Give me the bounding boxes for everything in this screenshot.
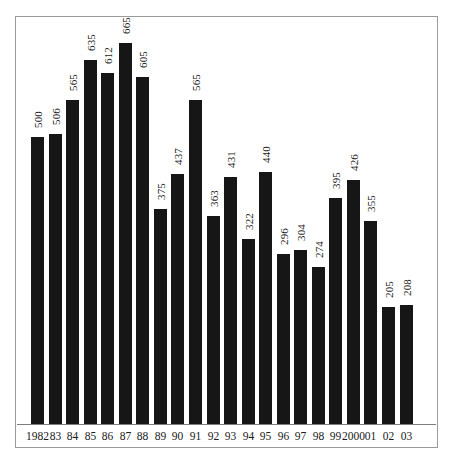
bar-value-label: 565: [67, 74, 78, 91]
bar-value-label: 355: [365, 195, 376, 212]
bar-group: 665: [119, 17, 132, 424]
bar: [224, 177, 237, 424]
bar: [364, 221, 377, 424]
x-axis-tick-label: 86: [98, 430, 118, 443]
bar: [171, 174, 184, 424]
x-axis-labels: 1982838485868788899091929394959697989920…: [16, 426, 437, 446]
bar-group: 431: [224, 17, 237, 424]
bar: [312, 267, 325, 424]
bar-value-label: 565: [190, 74, 201, 91]
bar-value-label: 395: [330, 172, 341, 189]
x-axis-tick-label: 91: [186, 430, 206, 443]
bar-group: 395: [329, 17, 342, 424]
bar: [31, 137, 44, 424]
bar-group: 506: [49, 17, 62, 424]
bar: [154, 209, 167, 424]
bar-group: 363: [207, 17, 220, 424]
bar: [294, 250, 307, 424]
bar-value-label: 304: [295, 224, 306, 241]
bar-value-label: 500: [32, 111, 43, 128]
bar: [347, 180, 360, 424]
bar-group: 635: [84, 17, 97, 424]
bar-value-label: 635: [85, 34, 96, 51]
bar-value-label: 274: [313, 241, 324, 258]
bar: [382, 307, 395, 424]
bar-group: 205: [382, 17, 395, 424]
bar-value-label: 375: [155, 183, 166, 200]
x-axis-line: [17, 424, 436, 425]
bar-value-label: 506: [50, 108, 61, 125]
bar-group: 440: [259, 17, 272, 424]
bar: [136, 77, 149, 424]
bar-group: 296: [277, 17, 290, 424]
bar-value-label: 322: [243, 213, 254, 230]
bar: [207, 216, 220, 424]
x-axis-tick-label: 93: [221, 430, 241, 443]
plot-area: 5005065656356126656053754375653634313224…: [16, 17, 437, 447]
bar: [66, 100, 79, 424]
x-axis-tick-label: 97: [291, 430, 311, 443]
bar-group: 500: [31, 17, 44, 424]
bar-group: 426: [347, 17, 360, 424]
bar: [189, 100, 202, 424]
bar-group: 612: [101, 17, 114, 424]
bar: [277, 254, 290, 424]
bar-value-label: 296: [278, 228, 289, 245]
bar-group: 375: [154, 17, 167, 424]
x-axis-tick-label: 95: [256, 430, 276, 443]
bar-value-label: 426: [348, 154, 359, 171]
bar-chart: 5005065656356126656053754375653634313224…: [0, 0, 453, 465]
bar: [329, 198, 342, 424]
x-axis-tick-label: 02: [379, 430, 399, 443]
bar: [101, 73, 114, 424]
bar-value-label: 440: [260, 146, 271, 163]
bar-value-label: 665: [120, 17, 131, 34]
bar-value-label: 431: [225, 151, 236, 168]
x-axis-tick-label: 03: [397, 430, 417, 443]
bar: [242, 239, 255, 424]
bar: [119, 43, 132, 424]
bar-group: 565: [189, 17, 202, 424]
bar: [84, 60, 97, 424]
x-axis-tick-label: 84: [63, 430, 83, 443]
bar-value-label: 205: [383, 281, 394, 298]
bar: [400, 305, 413, 424]
x-axis-tick-label: 88: [133, 430, 153, 443]
bar-group: 565: [66, 17, 79, 424]
bar-group: 322: [242, 17, 255, 424]
bar-group: 274: [312, 17, 325, 424]
bar-value-label: 363: [208, 190, 219, 207]
bar-value-label: 612: [102, 47, 113, 64]
bar: [49, 134, 62, 424]
bar-value-label: 605: [137, 51, 148, 68]
bar-value-label: 437: [172, 148, 183, 165]
bar-group: 437: [171, 17, 184, 424]
bar: [259, 172, 272, 424]
x-axis-tick-label: 90: [168, 430, 188, 443]
bar-group: 208: [400, 17, 413, 424]
bar-group: 355: [364, 17, 377, 424]
x-axis-tick-label: 01: [361, 430, 381, 443]
bar-group: 605: [136, 17, 149, 424]
bar-value-label: 208: [401, 279, 412, 296]
bar-group: 304: [294, 17, 307, 424]
bars-container: 5005065656356126656053754375653634313224…: [16, 17, 437, 424]
